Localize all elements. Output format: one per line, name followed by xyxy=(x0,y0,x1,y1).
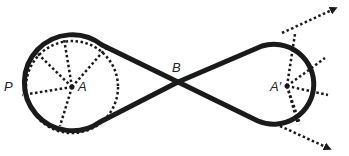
label-a: A xyxy=(78,80,87,93)
center-dot-a-prime xyxy=(285,84,290,89)
diagram-figure xyxy=(0,0,349,156)
label-p: P xyxy=(4,80,13,93)
arrow-up-right xyxy=(282,9,334,33)
label-a-prime: A′ xyxy=(270,80,281,93)
center-dot-a xyxy=(70,85,75,90)
diagram-canvas: P A B A′ xyxy=(0,0,349,156)
arrow-down-right xyxy=(280,126,328,148)
label-b: B xyxy=(172,61,181,74)
